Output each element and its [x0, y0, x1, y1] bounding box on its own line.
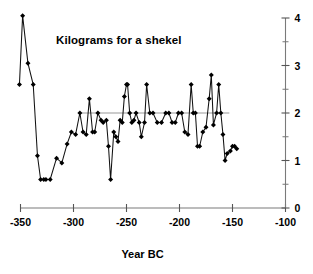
- data-point-marker: [69, 130, 74, 135]
- data-point-marker: [113, 134, 118, 139]
- y-tick-label: 4: [295, 12, 301, 24]
- x-tick-label: -250: [116, 216, 137, 228]
- data-point-marker: [65, 141, 70, 146]
- data-point-marker: [142, 120, 147, 125]
- y-tick-label: 3: [295, 60, 301, 72]
- data-point-marker: [25, 61, 30, 66]
- data-point-marker: [216, 82, 221, 87]
- data-point-marker: [211, 122, 216, 127]
- data-point-marker: [139, 134, 144, 139]
- x-tick-label: -350: [10, 216, 31, 228]
- data-point-marker: [122, 94, 127, 99]
- data-point-marker: [17, 82, 22, 87]
- data-point-marker: [223, 158, 228, 163]
- data-point-marker: [73, 132, 78, 137]
- y-axis: [282, 18, 290, 208]
- data-point-marker: [189, 82, 194, 87]
- data-point-marker: [127, 111, 132, 116]
- x-tick-label: -200: [169, 216, 190, 228]
- data-point-marker: [134, 111, 139, 116]
- data-point-marker: [207, 96, 212, 101]
- chart-title: Kilograms for a shekel: [56, 34, 182, 46]
- y-tick-label: 0: [295, 202, 301, 214]
- data-point-marker: [20, 13, 25, 18]
- data-point-marker: [220, 132, 225, 137]
- data-point-marker: [48, 177, 53, 182]
- x-axis-label: Year BC: [0, 248, 285, 260]
- data-point-marker: [173, 120, 178, 125]
- data-point-marker: [179, 111, 184, 116]
- x-tick-labels: -350-300-250-200-150-100: [10, 216, 296, 228]
- data-point-marker: [151, 111, 156, 116]
- data-point-marker: [77, 111, 82, 116]
- data-point-marker: [108, 177, 113, 182]
- y-tick-label: 2: [295, 107, 301, 119]
- data-point-marker: [218, 111, 223, 116]
- data-point-marker: [106, 144, 111, 149]
- data-point-marker: [166, 111, 171, 116]
- x-tick-label: -100: [275, 216, 296, 228]
- x-axis: [21, 204, 286, 212]
- y-tick-labels: 01234: [295, 12, 301, 214]
- data-point-marker: [95, 111, 100, 116]
- data-point-marker: [144, 82, 149, 87]
- chart-container: -350-300-250-200-150-100 01234 Kilograms…: [0, 0, 313, 274]
- x-tick-label: -300: [63, 216, 84, 228]
- data-point-marker: [35, 153, 40, 158]
- y-tick-label: 1: [295, 155, 301, 167]
- data-point-marker: [209, 73, 214, 78]
- data-point-marker: [87, 96, 92, 101]
- data-point-marker: [159, 120, 164, 125]
- data-point-marker: [116, 139, 121, 144]
- data-point-marker: [31, 82, 36, 87]
- x-tick-label: -150: [222, 216, 243, 228]
- data-point-marker: [137, 120, 142, 125]
- data-point-marker: [111, 130, 116, 135]
